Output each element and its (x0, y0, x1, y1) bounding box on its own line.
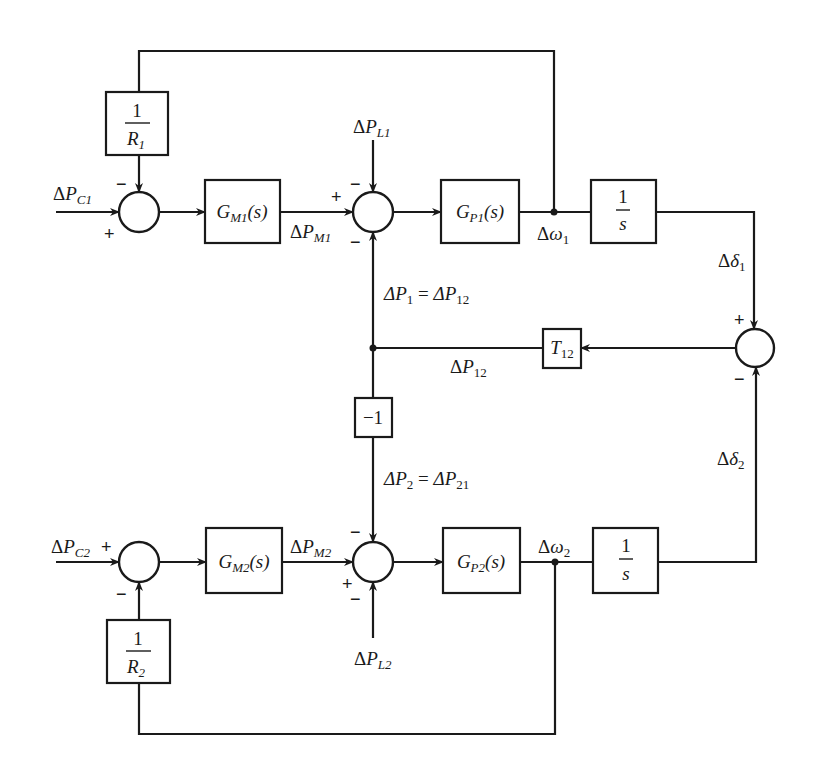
label-delta-pm1: ΔPM1 (290, 221, 331, 245)
integrator1-denominator: s (619, 213, 626, 234)
summing-junction-5 (353, 542, 393, 582)
label-delta-pl2: ΔPL2 (354, 648, 392, 672)
sum3-minus-sign: − (734, 369, 745, 389)
block-diagram: 1 R1 − ΔPC1 + GM1(s) ΔPM1 + ΔPL1 − − GP1… (0, 0, 816, 783)
summing-junction-tie (736, 329, 774, 367)
label-delta-p12: ΔP12 (450, 356, 487, 380)
label-delta-delta1: Δδ1 (718, 250, 746, 274)
label-delta-pc1: ΔPC1 (53, 183, 92, 207)
label-delta-delta2: Δδ2 (717, 448, 745, 472)
label-p2-equals-p21: ΔP2 = ΔP21 (383, 468, 469, 492)
sum4-minus-sign: − (116, 584, 127, 604)
sum5-minus-sign-bottom: − (350, 589, 361, 609)
sum2-minus-sign-top: − (350, 174, 361, 194)
summing-junction-1 (119, 192, 159, 232)
label-delta-omega2: Δω2 (538, 536, 570, 560)
junction-omega1 (551, 209, 558, 216)
sum3-plus-sign: + (734, 310, 745, 330)
integrator1-numerator: 1 (618, 186, 628, 207)
sum1-plus-sign: + (104, 224, 115, 244)
sum2-plus-sign: + (331, 187, 342, 207)
sum1-minus-sign: − (116, 174, 127, 194)
summing-junction-4 (119, 542, 159, 582)
integrator2-numerator: 1 (621, 535, 631, 556)
sum4-plus-sign: + (101, 537, 112, 557)
label-p1-equals-p12: ΔP1 = ΔP12 (383, 283, 469, 307)
sum2-minus-sign-bottom: − (350, 232, 361, 252)
r1-numerator: 1 (132, 100, 142, 121)
label-delta-omega1: Δω1 (537, 223, 569, 247)
r2-numerator: 1 (133, 628, 143, 649)
neg1-label: −1 (363, 407, 383, 428)
label-delta-pl1: ΔPL1 (353, 116, 391, 140)
integrator2-denominator: s (622, 563, 629, 584)
label-delta-pm2: ΔPM2 (290, 536, 332, 560)
summing-junction-2 (353, 192, 393, 232)
sum5-minus-sign-top: − (350, 522, 361, 542)
label-delta-pc2: ΔPC2 (51, 536, 90, 560)
